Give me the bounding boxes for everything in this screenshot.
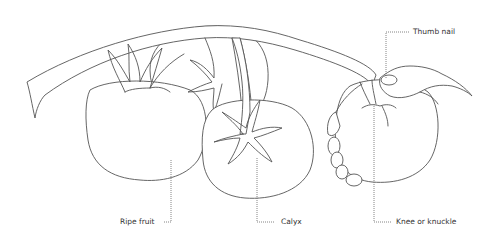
tomato-illustration xyxy=(0,0,483,236)
label-knee-or-knuckle: Knee or knuckle xyxy=(396,218,456,226)
held-tomato xyxy=(335,80,438,183)
calyx-tomato xyxy=(202,100,313,198)
label-calyx: Calyx xyxy=(281,218,302,226)
thumb-nail xyxy=(381,75,397,85)
ripe-fruit-tomato xyxy=(86,81,206,180)
tomato-vine-diagram: Thumb nail Ripe fruit Calyx Knee or knuc… xyxy=(0,0,483,236)
label-thumb-nail: Thumb nail xyxy=(413,28,455,36)
label-ripe-fruit: Ripe fruit xyxy=(120,218,155,226)
